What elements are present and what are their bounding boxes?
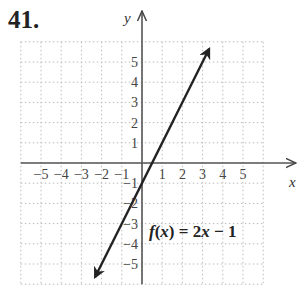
x-tick-label: −3 [74, 167, 89, 182]
x-tick-label: 5 [240, 167, 247, 182]
y-tick-label: −4 [123, 237, 138, 252]
x-tick-label: −4 [54, 167, 69, 182]
y-tick-label: 5 [131, 55, 138, 70]
x-tick-label: −5 [34, 167, 49, 182]
x-tick-label: 2 [179, 167, 186, 182]
y-tick-label: −5 [123, 257, 138, 272]
x-tick-label: 1 [159, 167, 166, 182]
y-tick-label: −1 [123, 176, 138, 191]
function-graph: xy−5−4−3−2−11234554321−1−2−3−4−5f(x) = 2… [0, 0, 301, 292]
y-axis-label: y [122, 10, 131, 26]
y-tick-label: 4 [131, 75, 138, 90]
function-label: f(x) = 2x − 1 [149, 222, 236, 241]
x-tick-label: 4 [219, 167, 226, 182]
y-tick-label: 3 [131, 95, 138, 110]
y-tick-label: 2 [131, 116, 138, 131]
x-tick-label: −2 [94, 167, 109, 182]
x-tick-label: 3 [199, 167, 206, 182]
y-tick-label: 1 [131, 136, 138, 151]
x-axis-label: x [288, 174, 296, 190]
